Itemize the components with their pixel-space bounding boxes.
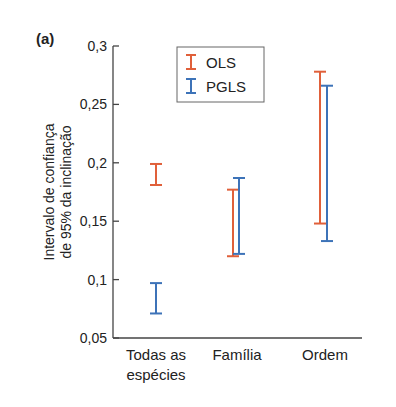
x-category-label: espécies — [126, 366, 185, 383]
y-tick-label: 0,1 — [88, 272, 108, 288]
errorbar-pgls — [150, 283, 162, 313]
y-tick-label: 0,05 — [80, 330, 107, 346]
legend-label-ols: OLS — [206, 54, 236, 71]
errorbar-chart: 0,050,10,150,20,250,3OLSPGLSTodas asespé… — [0, 0, 396, 407]
errorbar-ols — [150, 164, 162, 185]
y-tick-label: 0,25 — [80, 96, 107, 112]
errorbar-ols — [227, 190, 239, 257]
y-tick-label: 0,15 — [80, 213, 107, 229]
y-tick-label: 0,3 — [88, 38, 108, 54]
x-category-label: Ordem — [302, 346, 348, 363]
x-category-label: Família — [212, 346, 262, 363]
errorbar-pgls — [321, 86, 333, 241]
legend-label-pgls: PGLS — [206, 78, 246, 95]
x-category-label: Todas as — [126, 346, 186, 363]
errorbar-ols — [314, 72, 326, 224]
y-tick-label: 0,2 — [88, 155, 108, 171]
